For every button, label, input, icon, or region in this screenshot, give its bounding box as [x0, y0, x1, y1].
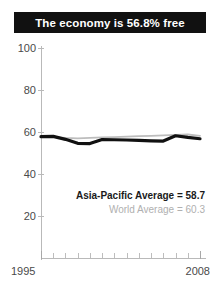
chart-container: The economy is 56.8% free 100 80 60 40 2…: [0, 0, 218, 296]
legend-asia-pacific-average: Asia-Pacific Average = 58.7: [76, 189, 205, 203]
chart-legend: Asia-Pacific Average = 58.7 World Averag…: [76, 189, 205, 216]
legend-world-average: World Average = 60.3: [76, 203, 205, 217]
series-svg: [0, 0, 218, 296]
